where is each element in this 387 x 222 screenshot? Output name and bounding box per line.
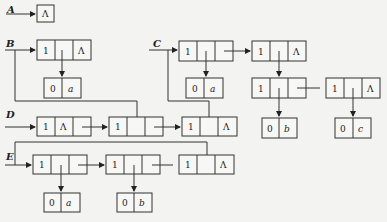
null-symbol: Λ — [77, 46, 85, 56]
tag: 1 — [185, 47, 191, 57]
list-B: B 1 Λ 0 a — [5, 38, 137, 125]
label-C: C — [153, 38, 161, 49]
atom-value: a — [210, 84, 215, 94]
atom-value: b — [139, 198, 145, 208]
atom-value: a — [66, 198, 71, 208]
tag: 1 — [115, 122, 121, 132]
tag: 0 — [50, 84, 56, 94]
tag: 1 — [112, 160, 118, 170]
tag: 1 — [43, 46, 49, 56]
tag: 0 — [122, 198, 128, 208]
tag: 1 — [258, 84, 264, 94]
label-E: E — [5, 151, 14, 162]
tag: 0 — [49, 198, 55, 208]
tag: 1 — [39, 160, 45, 170]
atom-value: b — [284, 124, 290, 134]
tag: 1 — [332, 84, 338, 94]
tag: 1 — [185, 160, 191, 170]
null-symbol: Λ — [41, 9, 49, 19]
generalized-list-diagram: A Λ B 1 Λ 0 a C 1 1 — [0, 0, 387, 222]
tag: 1 — [258, 47, 264, 57]
tag: 1 — [43, 122, 49, 132]
label-A: A — [6, 4, 15, 15]
list-E: E 1 1 1 Λ 0 a 0 b — [5, 151, 234, 212]
tag: 0 — [192, 84, 198, 94]
diagram-canvas: A Λ B 1 Λ 0 a C 1 1 — [0, 0, 387, 222]
null-symbol: Λ — [366, 84, 374, 94]
tag: 0 — [340, 124, 346, 134]
tag: 0 — [267, 124, 273, 134]
label-D: D — [5, 109, 15, 120]
null-symbol: Λ — [222, 122, 230, 132]
null-symbol: Λ — [292, 47, 300, 57]
tag: 1 — [188, 122, 194, 132]
list-A: A Λ — [6, 4, 54, 22]
atom-value: c — [358, 124, 363, 134]
atom-value: a — [68, 84, 73, 94]
label-B: B — [5, 38, 14, 49]
null-symbol: Λ — [59, 122, 67, 132]
null-symbol: Λ — [219, 160, 227, 170]
